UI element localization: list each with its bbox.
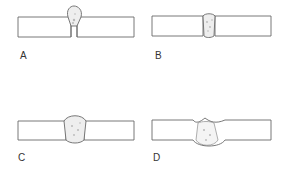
panel-label-b: B xyxy=(155,50,162,61)
panel-d-drawing xyxy=(152,118,271,146)
plate-left xyxy=(152,16,203,36)
weld-diagram xyxy=(0,0,292,169)
panel-b-drawing xyxy=(152,14,271,38)
panel-label-d: D xyxy=(153,152,160,163)
plate-right xyxy=(215,16,271,36)
plate-left xyxy=(18,17,71,37)
weld-bead xyxy=(196,122,218,146)
panel-c-drawing xyxy=(18,116,134,143)
weld-bead xyxy=(64,116,86,143)
weld-bead xyxy=(203,14,215,38)
panel-a-drawing xyxy=(18,6,134,37)
panel-label-c: C xyxy=(18,152,25,163)
plate-right xyxy=(77,17,134,37)
root-gap xyxy=(71,26,77,37)
plate-right xyxy=(84,121,134,140)
panel-label-a: A xyxy=(20,50,27,61)
plate-left xyxy=(18,121,66,140)
